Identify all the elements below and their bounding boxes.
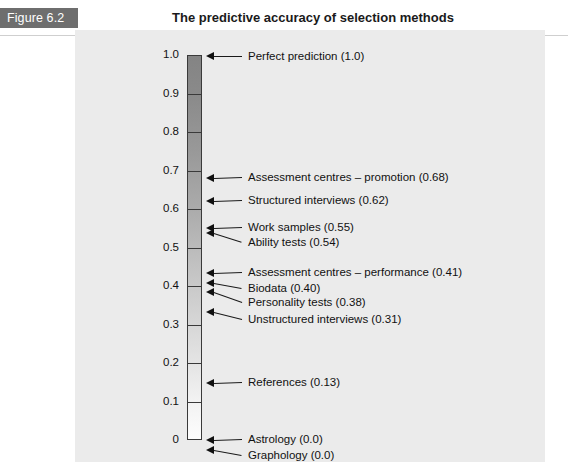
- figure-title: The predictive accuracy of selection met…: [78, 8, 548, 28]
- chart-panel: [75, 30, 545, 462]
- figure-number-badge: Figure 6.2: [0, 8, 78, 28]
